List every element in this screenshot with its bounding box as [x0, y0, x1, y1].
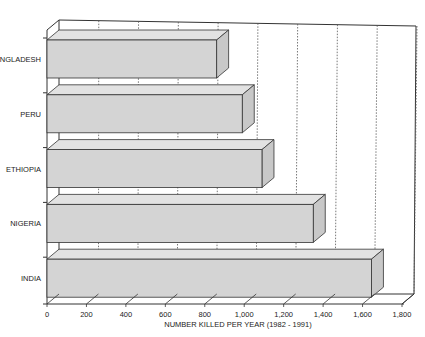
bar-ethiopia — [43, 140, 274, 188]
category-label: INDIA — [21, 274, 41, 283]
bar-chart: 02004006008001,0001,2001,4001,6001,800 B… — [0, 0, 425, 337]
x-tick-label: 200 — [80, 310, 93, 319]
x-tick-label: 1,600 — [353, 310, 372, 319]
x-tick-label: 1,000 — [235, 310, 254, 319]
x-tick-label: 800 — [199, 310, 212, 319]
category-label: NIGERIA — [10, 219, 41, 228]
bar-nigeria — [43, 194, 325, 242]
x-axis: 02004006008001,0001,2001,4001,6001,800 — [45, 294, 414, 319]
bar-india — [43, 249, 383, 297]
category-label: ETHIOPIA — [6, 165, 41, 174]
x-tick-label: 0 — [45, 310, 49, 319]
x-tick-label: 1,800 — [393, 310, 412, 319]
bar-peru — [43, 85, 254, 133]
x-tick-label: 1,400 — [314, 310, 333, 319]
x-tick-label: 600 — [159, 310, 172, 319]
chart-canvas: 02004006008001,0001,2001,4001,6001,800 B… — [0, 0, 425, 337]
category-label: PERU — [20, 110, 41, 119]
x-tick-label: 400 — [120, 310, 133, 319]
category-label: BANGLADESH — [0, 55, 41, 64]
bars — [43, 30, 383, 297]
bar-bangladesh — [43, 30, 229, 78]
category-labels: BANGLADESHPERUETHIOPIANIGERIAINDIA — [0, 55, 41, 283]
x-axis-title: NUMBER KILLED PER YEAR (1982 - 1991) — [164, 320, 312, 329]
x-tick-label: 1,200 — [274, 310, 293, 319]
